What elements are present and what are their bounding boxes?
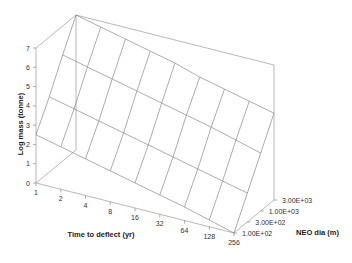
mesh-line-z2 — [186, 115, 211, 127]
y-tick-label: 3 — [26, 122, 30, 129]
mesh-line-x3 — [110, 133, 123, 171]
mesh-line-z3 — [150, 51, 175, 63]
mesh-line-x0 — [63, 15, 76, 55]
mesh-line-x5 — [173, 115, 186, 157]
mesh-line-z3 — [76, 15, 101, 27]
x-tick-label: 32 — [156, 220, 164, 227]
mesh-line-z0 — [209, 220, 234, 233]
y-axis-label: Log mass (tonne) — [16, 92, 25, 155]
x-tick-label: 64 — [181, 227, 189, 234]
mesh-line-x7 — [209, 181, 222, 220]
x-tick-label: 128 — [203, 233, 215, 240]
mesh-line-z3 — [200, 77, 225, 89]
mesh-line-x8 — [234, 193, 247, 233]
mesh-line-x7 — [236, 101, 249, 140]
mesh-line-x6 — [211, 89, 224, 127]
z-tick-label: 1.00E+03 — [269, 208, 299, 215]
mesh-line-x2 — [86, 121, 99, 159]
mesh-line-x5 — [160, 157, 173, 195]
mesh-line-z3 — [249, 101, 274, 113]
mesh-line-z0 — [160, 195, 185, 207]
mesh-line-z2 — [87, 67, 112, 79]
mesh-line-z0 — [86, 159, 111, 171]
mesh-line-z1 — [74, 109, 99, 121]
x-tick-label: 16 — [131, 214, 139, 221]
mesh-line-z2 — [236, 140, 261, 153]
top-left-edge — [36, 15, 76, 48]
mesh-line-z3 — [175, 63, 200, 77]
mesh-line-z3 — [126, 39, 151, 51]
mesh-line-x5 — [186, 77, 199, 115]
y-tick-label: 0 — [26, 180, 30, 187]
mesh-line-z3 — [101, 27, 126, 39]
y-tick-label: 1 — [26, 160, 30, 167]
mesh-line-z2 — [63, 55, 88, 67]
mesh-line-z0 — [185, 207, 210, 220]
mesh-line-z2 — [162, 103, 187, 115]
mesh-line-x6 — [185, 169, 198, 207]
mesh-line-x4 — [162, 63, 175, 103]
mesh-line-z1 — [124, 133, 149, 145]
mesh-line-x3 — [124, 91, 137, 133]
mesh-line-x8 — [247, 153, 260, 193]
y-tick-label: 2 — [26, 141, 30, 148]
x-tick-label: 256 — [228, 239, 240, 246]
x-tick-label: 2 — [59, 195, 63, 202]
mesh-line-z1 — [198, 169, 223, 181]
x-axis-label: Time to deflect (yr) — [68, 230, 135, 239]
mesh-line-x1 — [61, 109, 74, 147]
top-back-edge — [76, 15, 274, 65]
z-tick-label: 3.00E+02 — [255, 219, 285, 226]
mesh-line-z0 — [36, 135, 61, 147]
mesh-line-x6 — [198, 127, 211, 169]
mesh-line-z1 — [99, 121, 124, 133]
z-tick-label: 3.00E+03 — [282, 197, 312, 204]
mesh-line-z1 — [223, 181, 248, 193]
mesh-line-z2 — [112, 79, 137, 91]
mesh-line-z0 — [135, 183, 160, 195]
mesh-line-x3 — [137, 51, 150, 91]
y-tick-label: 5 — [26, 83, 30, 90]
z-tick-label: 1.00E+02 — [242, 230, 272, 237]
surface-mesh — [36, 15, 274, 233]
mesh-line-x0 — [36, 97, 49, 135]
mesh-line-z0 — [110, 171, 135, 183]
mesh-line-x4 — [135, 145, 148, 183]
mesh-line-z2 — [137, 91, 162, 103]
mesh-line-z1 — [49, 97, 74, 109]
mesh-line-x8 — [261, 113, 274, 153]
mesh-line-z2 — [211, 127, 236, 140]
y-tick-label: 6 — [26, 64, 30, 71]
back-left-floor-edge — [36, 150, 76, 183]
y-tick-label: 7 — [26, 45, 30, 52]
x-tick-label: 8 — [108, 208, 112, 215]
z-axis-line — [234, 200, 274, 233]
mesh-line-z0 — [61, 147, 86, 159]
y-tick-label: 4 — [26, 102, 30, 109]
y-axis-ticks: 01234567 — [26, 45, 36, 187]
x-tick-label: 4 — [84, 202, 88, 209]
mesh-line-x4 — [148, 103, 161, 145]
mesh-line-x0 — [49, 55, 62, 97]
mesh-line-z3 — [225, 89, 250, 101]
z-axis-label: NEO dia (m) — [296, 228, 339, 237]
x-axis-ticks: 1248163264128256 — [34, 183, 240, 246]
x-tick-label: 1 — [34, 189, 38, 196]
surface-chart: 01234567 1248163264128256 1.00E+023.00E+… — [0, 0, 352, 263]
mesh-line-x1 — [87, 27, 100, 67]
mesh-line-z1 — [148, 145, 173, 157]
mesh-line-x7 — [223, 140, 236, 181]
mesh-line-x2 — [99, 79, 112, 121]
mesh-line-x2 — [112, 39, 125, 79]
mesh-line-z1 — [173, 157, 198, 169]
